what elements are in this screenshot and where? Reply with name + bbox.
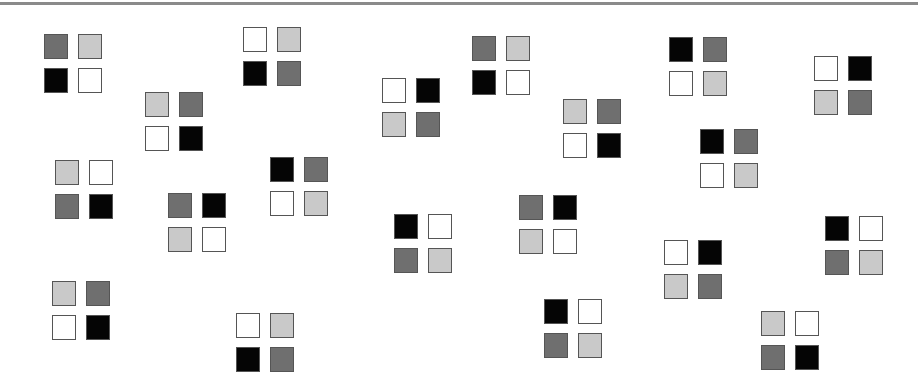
square-grid-13 xyxy=(519,195,579,256)
square-cell xyxy=(795,345,819,370)
square-cell xyxy=(703,71,727,96)
square-cell xyxy=(700,163,724,188)
square-cell xyxy=(78,34,102,59)
square-cell xyxy=(472,70,496,95)
square-grid-4 xyxy=(382,78,442,139)
square-cell xyxy=(578,333,602,358)
square-cell xyxy=(382,112,406,137)
square-cell xyxy=(277,27,301,52)
square-cell xyxy=(52,315,76,340)
square-grid-7 xyxy=(669,37,729,98)
square-grid-2 xyxy=(243,27,303,88)
square-cell xyxy=(44,34,68,59)
square-cell xyxy=(553,195,577,220)
square-cell xyxy=(553,229,577,254)
top-divider-line xyxy=(0,2,918,5)
square-grid-14 xyxy=(700,129,760,190)
square-cell xyxy=(848,90,872,115)
square-grid-10 xyxy=(168,193,228,254)
square-cell xyxy=(89,194,113,219)
square-cell xyxy=(44,68,68,93)
square-cell xyxy=(55,194,79,219)
square-cell xyxy=(86,281,110,306)
square-cell xyxy=(519,195,543,220)
square-cell xyxy=(89,160,113,185)
square-cell xyxy=(179,126,203,151)
square-grid-18 xyxy=(236,313,296,374)
square-cell xyxy=(145,126,169,151)
square-cell xyxy=(859,250,883,275)
square-cell xyxy=(277,61,301,86)
square-cell xyxy=(304,157,328,182)
square-cell xyxy=(597,99,621,124)
square-grid-6 xyxy=(563,99,623,160)
square-grid-19 xyxy=(544,299,604,360)
square-grid-20 xyxy=(761,311,821,372)
square-cell xyxy=(416,78,440,103)
square-grid-3 xyxy=(145,92,205,153)
square-cell xyxy=(270,313,294,338)
square-cell xyxy=(664,240,688,265)
square-cell xyxy=(761,311,785,336)
square-grid-15 xyxy=(664,240,724,301)
square-grid-16 xyxy=(825,216,885,277)
square-cell xyxy=(86,315,110,340)
square-grid-11 xyxy=(270,157,330,218)
square-cell xyxy=(506,36,530,61)
square-cell xyxy=(52,281,76,306)
square-cell xyxy=(78,68,102,93)
square-cell xyxy=(669,71,693,96)
square-cell xyxy=(669,37,693,62)
square-cell xyxy=(394,214,418,239)
square-cell xyxy=(563,99,587,124)
square-cell xyxy=(848,56,872,81)
square-grid-8 xyxy=(814,56,874,117)
square-cell xyxy=(472,36,496,61)
square-cell xyxy=(428,214,452,239)
square-cell xyxy=(814,90,838,115)
square-cell xyxy=(243,61,267,86)
square-cell xyxy=(202,227,226,252)
square-cell xyxy=(519,229,543,254)
square-cell xyxy=(168,227,192,252)
square-cell xyxy=(578,299,602,324)
square-cell xyxy=(236,347,260,372)
square-cell xyxy=(597,133,621,158)
square-cell xyxy=(394,248,418,273)
square-cell xyxy=(698,240,722,265)
square-cell xyxy=(825,250,849,275)
square-cell xyxy=(270,191,294,216)
square-cell xyxy=(563,133,587,158)
square-cell xyxy=(382,78,406,103)
square-cell xyxy=(270,157,294,182)
square-cell xyxy=(243,27,267,52)
square-cell xyxy=(544,299,568,324)
square-cell xyxy=(795,311,819,336)
square-cell xyxy=(698,274,722,299)
square-grid-5 xyxy=(472,36,532,97)
square-cell xyxy=(734,129,758,154)
square-cell xyxy=(664,274,688,299)
square-grid-1 xyxy=(44,34,104,95)
square-grid-9 xyxy=(55,160,115,221)
square-cell xyxy=(859,216,883,241)
square-cell xyxy=(544,333,568,358)
square-cell xyxy=(703,37,727,62)
square-cell xyxy=(506,70,530,95)
square-cell xyxy=(270,347,294,372)
square-cell xyxy=(168,193,192,218)
square-cell xyxy=(428,248,452,273)
square-grid-12 xyxy=(394,214,454,275)
square-cell xyxy=(416,112,440,137)
square-cell xyxy=(179,92,203,117)
square-cell xyxy=(814,56,838,81)
square-cell xyxy=(236,313,260,338)
square-cell xyxy=(734,163,758,188)
square-grid-17 xyxy=(52,281,112,342)
square-cell xyxy=(700,129,724,154)
square-cell xyxy=(825,216,849,241)
square-cell xyxy=(202,193,226,218)
square-cell xyxy=(761,345,785,370)
square-cell xyxy=(304,191,328,216)
square-cell xyxy=(55,160,79,185)
